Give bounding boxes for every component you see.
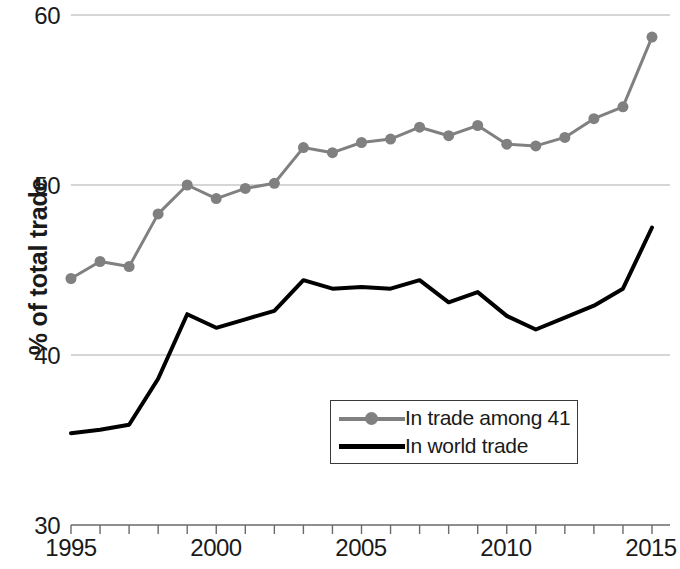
data-point-marker xyxy=(443,130,454,141)
legend-swatch-black-line xyxy=(339,435,405,457)
data-point-marker xyxy=(647,32,658,43)
plot-area xyxy=(0,0,680,569)
data-point-marker xyxy=(66,273,77,284)
data-point-marker xyxy=(588,113,599,124)
data-point-marker xyxy=(327,147,338,158)
data-point-marker xyxy=(501,139,512,150)
legend-entry-in-world-trade: In world trade xyxy=(339,432,528,460)
data-point-marker xyxy=(617,101,628,112)
data-series-layer xyxy=(66,32,658,434)
data-point-marker xyxy=(153,208,164,219)
chart-container: % of total trade 60 50 40 30 1995 2000 2… xyxy=(0,0,680,569)
data-point-marker xyxy=(559,132,570,143)
data-point-marker xyxy=(95,256,106,267)
legend-line-black xyxy=(339,444,405,449)
legend: In trade among 41 In world trade xyxy=(330,400,578,464)
legend-entry-in-trade-among-41: In trade among 41 xyxy=(339,404,570,432)
data-point-marker xyxy=(182,180,193,191)
legend-swatch-gray-line-marker xyxy=(339,407,405,429)
data-point-marker xyxy=(414,122,425,133)
gridlines xyxy=(71,15,670,355)
legend-marker-circle xyxy=(365,412,378,425)
data-point-marker xyxy=(240,183,251,194)
legend-label-1: In world trade xyxy=(405,434,528,458)
series-line xyxy=(71,37,652,278)
data-point-marker xyxy=(530,140,541,151)
legend-label-0: In trade among 41 xyxy=(405,406,570,430)
x-axis-ticks xyxy=(71,525,652,534)
data-point-marker xyxy=(124,261,135,272)
data-point-marker xyxy=(385,134,396,145)
data-point-marker xyxy=(356,137,367,148)
series-in-trade-among-41 xyxy=(66,32,658,284)
data-point-marker xyxy=(269,178,280,189)
data-point-marker xyxy=(211,193,222,204)
data-point-marker xyxy=(472,120,483,131)
data-point-marker xyxy=(298,142,309,153)
